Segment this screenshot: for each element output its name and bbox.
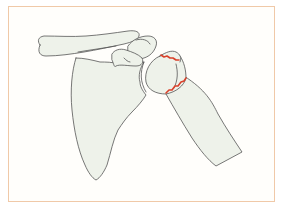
shoulder-illustration	[0, 0, 285, 212]
scapula	[71, 58, 146, 180]
